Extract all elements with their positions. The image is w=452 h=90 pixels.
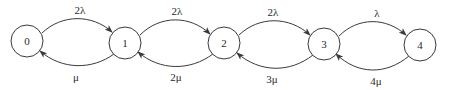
edge-3-to-2 [237, 53, 313, 68]
state-label: 1 [122, 37, 128, 49]
edge-0-to-1 [42, 19, 112, 33]
edge-label-1-to-0: μ [73, 71, 79, 83]
state-label: 4 [417, 39, 423, 51]
edge-4-to-3 [336, 54, 409, 70]
edge-label-1-to-2: 2λ [172, 5, 184, 17]
state-label: 0 [24, 35, 30, 47]
state-node-0: 0 [11, 25, 43, 57]
edge-label-0-to-1: 2λ [75, 4, 87, 16]
edge-label-2-to-1: 2μ [170, 71, 182, 83]
edge-label-4-to-3: 4μ [370, 75, 382, 87]
state-label: 3 [321, 38, 327, 50]
edge-label-2-to-3: 2λ [268, 6, 280, 18]
state-node-1: 1 [109, 27, 141, 59]
edge-1-to-2 [140, 20, 210, 35]
edge-label-3-to-2: 3μ [266, 73, 278, 85]
edge-3-to-4 [339, 22, 406, 36]
state-node-2: 2 [208, 27, 240, 59]
state-label: 2 [221, 37, 227, 49]
state-diagram: 01234 2λ 2λ 2λ λ μ 2μ 3μ 4μ [0, 0, 452, 90]
nodes: 01234 [11, 25, 436, 61]
state-node-4: 4 [404, 29, 436, 61]
edge-2-to-1 [138, 52, 213, 67]
edge-2-to-3 [239, 21, 310, 35]
edge-label-3-to-4: λ [374, 7, 380, 19]
edge-1-to-0 [40, 51, 114, 66]
state-node-3: 3 [308, 28, 340, 60]
